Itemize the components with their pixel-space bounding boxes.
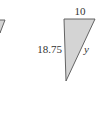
diagram-canvas: 10 18.75 y <box>0 0 111 137</box>
label-top-side: 10 <box>75 5 87 17</box>
right-triangle <box>64 19 95 81</box>
label-hypotenuse: y <box>83 43 89 55</box>
label-left-side: 18.75 <box>37 43 62 55</box>
partial-triangle-fragment <box>0 20 5 33</box>
